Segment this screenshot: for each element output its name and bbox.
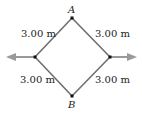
- edge-label-bottom-right: 3.00 m: [95, 74, 130, 85]
- node-a-dot: [71, 17, 74, 20]
- node-left-dot: [34, 56, 37, 59]
- left-force-arrow: [6, 53, 35, 61]
- node-a-label: A: [67, 4, 75, 15]
- node-b-dot: [71, 95, 74, 98]
- square-frame-diagram: A B 3.00 m 3.00 m 3.00 m 3.00 m: [0, 0, 142, 116]
- right-force-arrow: [110, 53, 137, 61]
- diagram-svg: A B 3.00 m 3.00 m 3.00 m 3.00 m: [0, 0, 142, 116]
- node-b-label: B: [67, 99, 75, 110]
- edge-label-top-left: 3.00 m: [21, 28, 56, 39]
- edge-label-top-right: 3.00 m: [95, 28, 130, 39]
- edge-label-bottom-left: 3.00 m: [20, 74, 55, 85]
- node-right-dot: [109, 56, 112, 59]
